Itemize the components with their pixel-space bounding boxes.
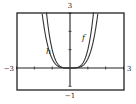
y-min-label: −1	[65, 92, 75, 100]
curve-label-h: h	[46, 47, 51, 56]
curve-label-f: f	[81, 33, 87, 42]
x-max-label: 3	[127, 65, 131, 73]
x-min-label: −3	[4, 65, 14, 73]
y-max-label: 3	[68, 2, 72, 10]
chart: 3 −1 −3 3 h f	[0, 0, 136, 104]
